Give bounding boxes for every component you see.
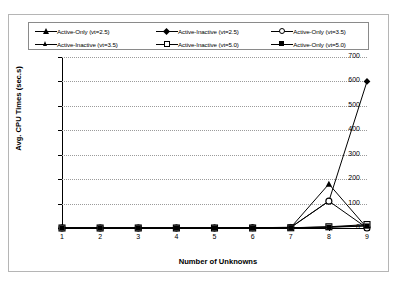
legend-label: Active-Inactive (vt=2.5) bbox=[178, 28, 239, 35]
data-point-marker bbox=[326, 198, 332, 204]
data-point-marker bbox=[326, 181, 332, 187]
data-point-marker bbox=[326, 225, 331, 230]
legend-item-active-only-vt35[interactable]: Active-Only (vt=3.5) bbox=[271, 25, 368, 38]
legend-label: Active-Inactive (vt=3.5) bbox=[57, 41, 118, 48]
chart-root: Active-Only (vt=2.5) Active-Inactive (vt… bbox=[0, 0, 397, 289]
series-active-only-vt-2-5 bbox=[59, 181, 370, 231]
legend-item-active-only-vt50[interactable]: Active-Only (vt=5.0) bbox=[271, 38, 368, 51]
legend-label: Active-Only (vt=3.5) bbox=[293, 28, 346, 35]
legend-item-active-inactive-vt25[interactable]: Active-Inactive (vt=2.5) bbox=[156, 25, 271, 38]
y-axis-title: Avg. CPU Times (sec.s) bbox=[14, 29, 23, 189]
data-point-marker bbox=[59, 225, 64, 230]
legend-item-active-only-vt25[interactable]: Active-Only (vt=2.5) bbox=[29, 25, 156, 38]
x-tick-label: 3 bbox=[128, 233, 148, 240]
legend-item-active-inactive-vt35[interactable]: Active-Inactive (vt=3.5) bbox=[29, 38, 156, 51]
filled-square-icon bbox=[271, 39, 293, 50]
data-point-marker bbox=[98, 225, 103, 230]
data-point-marker bbox=[212, 225, 217, 230]
data-point-marker bbox=[250, 225, 255, 230]
x-tick-label: 1 bbox=[52, 233, 72, 240]
x-tick-label: 2 bbox=[90, 233, 110, 240]
x-tick-label: 6 bbox=[243, 233, 263, 240]
x-tick-label: 7 bbox=[281, 233, 301, 240]
chart-legend: Active-Only (vt=2.5) Active-Inactive (vt… bbox=[28, 22, 369, 50]
filled-triangle-icon bbox=[35, 26, 57, 37]
x-tick-label: 4 bbox=[166, 233, 186, 240]
data-point-marker bbox=[136, 225, 141, 230]
data-point-marker bbox=[364, 223, 369, 228]
plot-area: 0100200300400500600700 123456789 bbox=[62, 57, 367, 228]
legend-row-1: Active-Only (vt=2.5) Active-Inactive (vt… bbox=[29, 25, 368, 38]
series-active-inactive-vt-2-5 bbox=[59, 78, 371, 231]
x-tick-label: 9 bbox=[357, 233, 377, 240]
legend-label: Active-Only (vt=2.5) bbox=[57, 28, 110, 35]
data-point-marker bbox=[174, 225, 179, 230]
series-line bbox=[62, 201, 367, 228]
legend-row-2: Active-Inactive (vt=3.5) Active-Inactive… bbox=[29, 38, 368, 51]
filled-diamond-icon bbox=[156, 26, 178, 37]
legend-label: Active-Inactive (vt=5.0) bbox=[178, 41, 239, 48]
legend-item-active-inactive-vt50[interactable]: Active-Inactive (vt=5.0) bbox=[156, 38, 271, 51]
legend-label: Active-Only (vt=5.0) bbox=[293, 41, 346, 48]
data-point-marker bbox=[288, 225, 293, 230]
x-axis-title: Number of Unknowns bbox=[60, 257, 376, 266]
small-filled-triangle-icon bbox=[35, 39, 57, 50]
x-tick-label: 5 bbox=[205, 233, 225, 240]
open-circle-icon bbox=[271, 26, 293, 37]
open-square-icon bbox=[156, 39, 178, 50]
series-layer bbox=[62, 57, 367, 228]
x-tick-label: 8 bbox=[319, 233, 339, 240]
